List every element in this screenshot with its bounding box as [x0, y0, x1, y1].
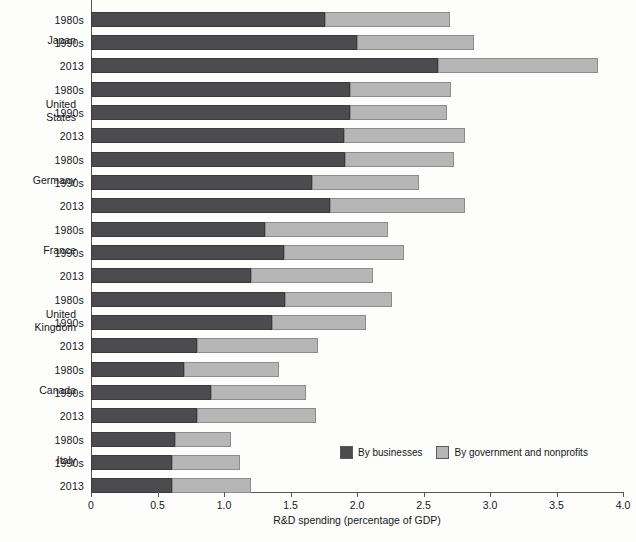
period-label: 2013: [32, 340, 84, 352]
period-label: 1980s: [32, 224, 84, 236]
bar-segment-businesses[interactable]: [91, 268, 251, 283]
chart-legend: By businesses By government and nonprofi…: [340, 446, 596, 459]
bar-row[interactable]: [91, 222, 388, 237]
bar-segment-businesses[interactable]: [91, 408, 197, 423]
bar-segment-government[interactable]: [211, 385, 307, 400]
x-axis-tick: [224, 492, 225, 497]
bar-row[interactable]: [91, 268, 373, 283]
bar-segment-businesses[interactable]: [91, 292, 285, 307]
legend-swatch-government: [436, 446, 449, 459]
legend-label-businesses: By businesses: [358, 447, 422, 458]
bar-segment-government[interactable]: [265, 222, 387, 237]
period-label: 1990s: [32, 247, 84, 259]
bar-segment-government[interactable]: [438, 58, 598, 73]
bar-segment-businesses[interactable]: [91, 315, 272, 330]
x-axis-tick-label: 3.5: [537, 499, 577, 511]
bar-row[interactable]: [91, 315, 366, 330]
bar-row[interactable]: [91, 105, 447, 120]
legend-swatch-businesses: [340, 446, 353, 459]
bar-row[interactable]: [91, 408, 316, 423]
x-axis-tick-label: 2.0: [337, 499, 377, 511]
bar-segment-businesses[interactable]: [91, 245, 284, 260]
period-label: 2013: [32, 60, 84, 72]
x-axis-tick: [91, 492, 92, 497]
period-label: 1980s: [32, 364, 84, 376]
bar-segment-government[interactable]: [325, 12, 450, 27]
period-label: 1980s: [32, 14, 84, 26]
bar-segment-businesses[interactable]: [91, 12, 325, 27]
bar-segment-government[interactable]: [284, 245, 404, 260]
bar-segment-government[interactable]: [330, 198, 464, 213]
bar-row[interactable]: [91, 82, 451, 97]
bar-segment-businesses[interactable]: [91, 385, 211, 400]
period-label: 2013: [32, 200, 84, 212]
bar-row[interactable]: [91, 455, 240, 470]
bar-segment-government[interactable]: [175, 432, 231, 447]
bar-segment-businesses[interactable]: [91, 432, 175, 447]
bar-segment-government[interactable]: [312, 175, 420, 190]
period-label: 1990s: [32, 37, 84, 49]
period-label: 1980s: [32, 84, 84, 96]
bar-segment-government[interactable]: [345, 152, 454, 167]
bar-segment-businesses[interactable]: [91, 152, 345, 167]
x-axis-tick-label: 0: [71, 499, 111, 511]
bar-segment-businesses[interactable]: [91, 35, 357, 50]
bar-segment-government[interactable]: [197, 338, 318, 353]
bar-row[interactable]: [91, 432, 231, 447]
x-axis-tick-label: 2.5: [404, 499, 444, 511]
bar-segment-businesses[interactable]: [91, 82, 350, 97]
bar-segment-businesses[interactable]: [91, 338, 197, 353]
x-axis-tick: [623, 492, 624, 497]
bar-segment-businesses[interactable]: [91, 128, 344, 143]
x-axis-tick-label: 3.0: [470, 499, 510, 511]
bar-segment-government[interactable]: [350, 105, 447, 120]
bar-segment-government[interactable]: [184, 362, 278, 377]
bar-row[interactable]: [91, 292, 392, 307]
bar-row[interactable]: [91, 152, 454, 167]
bar-segment-businesses[interactable]: [91, 198, 330, 213]
x-axis-tick-label: 1.5: [271, 499, 311, 511]
bar-segment-government[interactable]: [272, 315, 366, 330]
bar-segment-government[interactable]: [285, 292, 391, 307]
legend-item-government: By government and nonprofits: [436, 446, 587, 459]
x-axis-tick: [357, 492, 358, 497]
x-axis-title: R&D spending (percentage of GDP): [91, 514, 623, 526]
bar-row[interactable]: [91, 12, 450, 27]
bar-segment-government[interactable]: [197, 408, 315, 423]
period-label: 2013: [32, 130, 84, 142]
bar-segment-government[interactable]: [172, 455, 240, 470]
legend-label-government: By government and nonprofits: [454, 447, 587, 458]
period-label: 1990s: [32, 107, 84, 119]
bar-row[interactable]: [91, 338, 318, 353]
period-label: 1980s: [32, 434, 84, 446]
bar-row[interactable]: [91, 478, 251, 493]
period-label: 2013: [32, 480, 84, 492]
bar-segment-government[interactable]: [172, 478, 250, 493]
x-axis-tick-label: 0.5: [138, 499, 178, 511]
x-axis-tick: [557, 492, 558, 497]
bar-segment-businesses[interactable]: [91, 58, 438, 73]
bar-row[interactable]: [91, 128, 465, 143]
period-label: 1990s: [32, 317, 84, 329]
x-axis-tick: [291, 492, 292, 497]
bar-segment-government[interactable]: [344, 128, 465, 143]
bar-segment-government[interactable]: [357, 35, 474, 50]
bar-row[interactable]: [91, 362, 279, 377]
x-axis-tick: [424, 492, 425, 497]
bar-segment-businesses[interactable]: [91, 362, 184, 377]
bar-segment-government[interactable]: [350, 82, 451, 97]
bar-row[interactable]: [91, 198, 465, 213]
bar-row[interactable]: [91, 385, 306, 400]
period-label: 1980s: [32, 154, 84, 166]
bar-segment-businesses[interactable]: [91, 222, 265, 237]
bar-segment-businesses[interactable]: [91, 478, 172, 493]
bar-segment-government[interactable]: [251, 268, 373, 283]
bar-segment-businesses[interactable]: [91, 455, 172, 470]
bar-segment-businesses[interactable]: [91, 105, 350, 120]
bar-segment-businesses[interactable]: [91, 175, 312, 190]
x-axis-tick-label: 4.0: [603, 499, 636, 511]
bar-row[interactable]: [91, 58, 598, 73]
bar-row[interactable]: [91, 245, 404, 260]
bar-row[interactable]: [91, 175, 420, 190]
bar-row[interactable]: [91, 35, 474, 50]
